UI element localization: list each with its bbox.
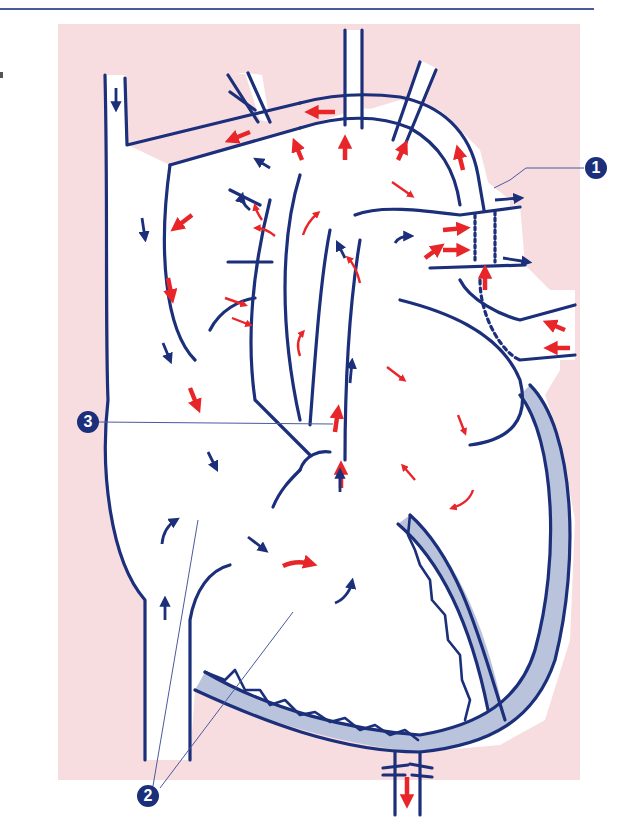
callout-2-badge: 2 <box>137 785 159 807</box>
callout-3-badge: 3 <box>77 411 99 433</box>
callout-1-badge: 1 <box>585 157 607 179</box>
